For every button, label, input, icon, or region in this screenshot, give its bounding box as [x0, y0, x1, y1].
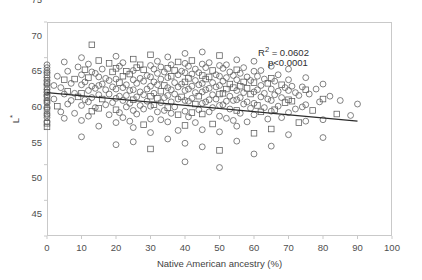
data-point	[89, 108, 95, 114]
data-point	[148, 63, 154, 69]
data-point	[217, 165, 223, 171]
data-point	[96, 123, 102, 129]
data-point	[275, 88, 281, 94]
data-point	[268, 86, 274, 92]
data-point	[223, 62, 229, 68]
data-point	[154, 109, 160, 115]
data-point	[58, 85, 64, 91]
x-tick-label: 60	[239, 243, 269, 253]
x-tick-label: 90	[343, 243, 373, 253]
x-tick-label: 80	[308, 243, 338, 253]
data-point	[130, 108, 136, 114]
data-point	[258, 94, 264, 100]
data-point	[144, 73, 150, 79]
data-point	[168, 73, 174, 79]
data-point	[337, 98, 343, 104]
data-point	[206, 85, 212, 91]
x-axis-tick-labels: 0102030405060708090100	[47, 243, 392, 257]
data-point	[261, 76, 267, 82]
data-point	[134, 111, 140, 117]
data-point	[186, 114, 192, 120]
data-point	[55, 103, 61, 109]
data-point	[296, 120, 302, 126]
data-point	[244, 74, 250, 80]
x-tick-label: 10	[67, 243, 97, 253]
data-point	[355, 101, 361, 107]
data-point	[265, 116, 271, 122]
data-point	[182, 123, 188, 129]
y-tick-label: 55	[16, 138, 42, 148]
data-point	[175, 112, 181, 118]
data-point	[265, 96, 271, 102]
y-tick-label: 45	[16, 209, 42, 219]
data-point	[127, 100, 133, 106]
data-point	[99, 81, 105, 87]
data-point	[161, 69, 167, 75]
data-point	[182, 50, 188, 56]
data-point	[130, 125, 136, 131]
data-point	[217, 53, 223, 59]
data-point	[165, 85, 171, 91]
x-tick-label: 40	[170, 243, 200, 253]
data-point	[279, 115, 285, 121]
data-point	[148, 103, 154, 109]
data-point	[179, 68, 185, 74]
data-point	[79, 103, 85, 109]
data-point	[106, 91, 112, 97]
data-point	[234, 97, 240, 103]
data-point	[113, 142, 119, 148]
data-point	[154, 70, 160, 76]
data-point	[255, 73, 261, 79]
x-tick-label: 50	[205, 243, 235, 253]
data-point	[192, 120, 198, 126]
data-point	[130, 87, 136, 93]
data-point	[258, 83, 264, 89]
data-point	[303, 118, 309, 124]
data-point	[248, 78, 254, 84]
data-point	[275, 103, 281, 109]
x-tick-label: 30	[136, 243, 166, 253]
data-point	[272, 107, 278, 113]
data-point	[106, 112, 112, 118]
data-point	[292, 106, 298, 112]
data-point	[158, 76, 164, 82]
data-point	[199, 89, 205, 95]
data-point	[72, 110, 78, 116]
data-point	[241, 90, 247, 96]
data-point	[51, 83, 57, 89]
data-points-group	[44, 42, 360, 170]
data-point	[268, 98, 274, 104]
data-point	[189, 58, 195, 64]
data-point	[244, 99, 250, 105]
y-tick-label: 70	[16, 31, 42, 41]
data-point	[182, 159, 188, 165]
data-point	[286, 132, 292, 138]
data-point	[165, 119, 171, 125]
data-point	[175, 72, 181, 78]
data-point	[334, 111, 340, 117]
data-point	[241, 65, 247, 71]
data-point	[199, 100, 205, 106]
data-point	[110, 84, 116, 90]
data-point	[261, 90, 267, 96]
data-point	[303, 102, 309, 108]
data-point	[320, 135, 326, 141]
data-point	[217, 148, 223, 154]
data-point	[289, 83, 295, 89]
data-point	[120, 115, 126, 121]
data-point	[275, 72, 281, 78]
data-point	[113, 86, 119, 92]
data-point	[61, 77, 67, 83]
data-point	[51, 96, 57, 102]
data-point	[227, 69, 233, 75]
data-point	[327, 93, 333, 99]
data-point	[175, 59, 181, 65]
data-point	[234, 67, 240, 73]
data-point	[175, 127, 181, 133]
data-point	[192, 66, 198, 72]
data-point	[65, 101, 71, 107]
data-point	[148, 116, 154, 122]
data-point	[251, 58, 257, 64]
data-point	[220, 102, 226, 108]
data-point	[44, 93, 50, 99]
